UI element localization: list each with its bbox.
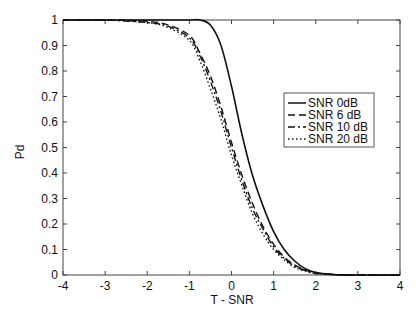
x-tick-label: -4 <box>58 279 69 293</box>
y-tick-label: 0.9 <box>41 39 58 53</box>
y-tick-label: 0.2 <box>41 217 58 231</box>
y-tick-label: 0.6 <box>41 115 58 129</box>
y-axis-label: Pd <box>13 145 27 160</box>
x-axis-label: T - SNR <box>210 293 253 307</box>
legend-label: SNR 20 dB <box>308 132 368 146</box>
y-tick-label: 0.3 <box>41 192 58 206</box>
x-tick-label: -2 <box>142 279 153 293</box>
x-tick-label: -1 <box>184 279 195 293</box>
y-tick-label: 0.5 <box>41 141 58 155</box>
y-tick-label: 0 <box>51 268 58 282</box>
y-tick-label: 1 <box>51 13 58 27</box>
y-tick-label: 0.1 <box>41 243 58 257</box>
x-tick-label: 3 <box>355 279 362 293</box>
y-tick-label: 0.8 <box>41 64 58 78</box>
x-tick-label: 0 <box>228 279 235 293</box>
pd-vs-threshold-chart: -4-3-2-10123400.10.20.30.40.50.60.70.80.… <box>0 0 418 319</box>
axes: -4-3-2-10123400.10.20.30.40.50.60.70.80.… <box>41 13 403 293</box>
x-tick-label: -3 <box>100 279 111 293</box>
x-tick-label: 1 <box>270 279 277 293</box>
x-tick-label: 4 <box>397 279 404 293</box>
legend: SNR 0dBSNR 6 dBSNR 10 dBSNR 20 dB <box>284 93 374 147</box>
x-tick-label: 2 <box>312 279 319 293</box>
y-tick-label: 0.7 <box>41 90 58 104</box>
y-tick-label: 0.4 <box>41 166 58 180</box>
